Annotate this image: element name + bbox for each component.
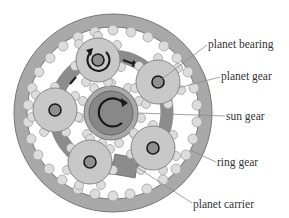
planetary-gear-diagram xyxy=(0,0,289,218)
planet-bearing xyxy=(147,142,159,154)
label-planet-carrier: planet carrier xyxy=(193,199,254,211)
planet-bearing xyxy=(49,104,61,116)
label-ring-gear: ring gear xyxy=(217,157,258,169)
label-planet-bearing: planet bearing xyxy=(208,39,273,51)
planet-bearing xyxy=(92,54,104,66)
label-sun-gear: sun gear xyxy=(226,111,265,123)
planet-bearing xyxy=(84,156,96,168)
label-planet-gear: planet gear xyxy=(221,71,272,83)
planet-bearing xyxy=(152,76,164,88)
